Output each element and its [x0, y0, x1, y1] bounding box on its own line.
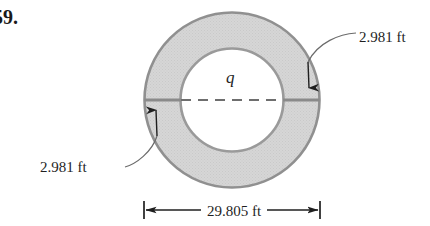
leader-arrow-bottom-left — [156, 110, 157, 136]
thickness-label-bottom: 2.981 ft — [40, 159, 87, 176]
diameter-label: 29.805 ft — [207, 203, 261, 220]
figure-page: 59. — [0, 0, 430, 226]
thickness-label-top: 2.981 ft — [359, 29, 406, 46]
center-label-q: q — [226, 68, 235, 88]
leader-arrow-top-right — [308, 62, 309, 88]
leader-line-bottom-left — [125, 136, 157, 167]
leader-line-top-right — [308, 33, 356, 62]
